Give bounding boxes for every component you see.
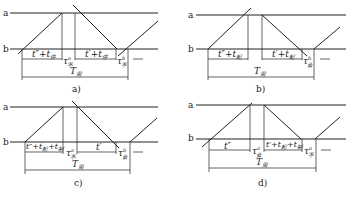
svg-text:t″+t停: t″+t停	[32, 49, 57, 60]
caption-c: c)	[74, 178, 83, 188]
svg-text:τa不: τa不	[304, 145, 315, 158]
svg-text:t′+t停: t′+t停	[85, 49, 109, 60]
train-path-up	[18, 13, 62, 54]
caption-b: b)	[256, 84, 265, 94]
svg-text:b: b	[188, 44, 194, 54]
line-b-label: b	[3, 44, 9, 54]
panel-c: a b t″+t起+t制 τa不 t′ τb会 T周 c)	[3, 101, 158, 188]
svg-text:t″: t″	[224, 141, 232, 151]
svg-text:t″+t起: t″+t起	[218, 49, 243, 60]
panel-a: a b t″+t停 τa不 t′+t停 τb不 T周 a)	[3, 5, 158, 94]
svg-text:a: a	[3, 102, 9, 112]
panel-b: a b t″+t起 t′+t起 τb会 T周 b)	[188, 8, 346, 94]
caption-d: d)	[258, 178, 267, 188]
svg-text:T周: T周	[72, 159, 84, 170]
train-path-up-next	[118, 21, 158, 56]
line-a-label: a	[3, 8, 9, 18]
svg-text:T周: T周	[256, 157, 268, 168]
svg-text:t″+t起+t制: t″+t起+t制	[26, 142, 65, 152]
svg-text:a: a	[188, 10, 194, 20]
caption-a: a)	[72, 84, 81, 94]
svg-text:τb不: τb不	[117, 55, 128, 68]
train-path-down	[73, 5, 117, 49]
panel-d: a b t″ τa会 t′+t起+t制 τa不 T周 d)	[188, 100, 346, 188]
timing-diagram-figure: a b t″+t停 τa不 t′+t停 τb不 T周 a) a b	[0, 0, 346, 197]
svg-text:a: a	[188, 100, 194, 110]
svg-text:T周: T周	[70, 66, 82, 77]
svg-text:t′+t起: t′+t起	[272, 49, 296, 60]
svg-text:τb会: τb会	[118, 147, 128, 160]
svg-text:T周: T周	[254, 66, 266, 77]
svg-text:b: b	[188, 133, 194, 143]
svg-text:t′+t起+t制: t′+t起+t制	[266, 140, 304, 150]
svg-text:b: b	[3, 137, 9, 147]
svg-text:t′: t′	[96, 142, 102, 152]
svg-text:τb会: τb会	[303, 55, 313, 68]
